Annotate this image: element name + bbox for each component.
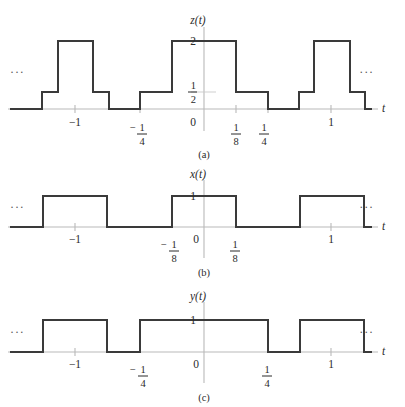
fraction-denominator: 4 — [140, 378, 146, 389]
fraction-numerator: 1 — [139, 122, 144, 133]
fraction-numerator: 1 — [261, 122, 266, 133]
panel-c-xtick-minus1: −1 — [69, 358, 81, 370]
panel-c-ytick-1: 1 — [190, 314, 196, 326]
panel-b: x(t) t 0 1 −1 − 1 8 1 8 1 ··· ··· (b) — [8, 168, 386, 279]
panel-a-right-ellipsis: ··· — [359, 65, 374, 79]
panel-b-x-axis-label: t — [382, 220, 386, 232]
fraction-numerator: 1 — [191, 80, 196, 91]
panel-b-xtick-eighth: 1 8 — [230, 239, 240, 264]
fraction-sign: − — [130, 364, 136, 375]
fraction-numerator: 1 — [140, 364, 145, 375]
panel-c-xtick-minus-quarter: − 1 4 — [130, 364, 148, 389]
panel-c-xtick-plus1: 1 — [328, 358, 334, 370]
panel-c-right-ellipsis: ··· — [359, 325, 374, 339]
panel-b-ytick-1: 1 — [190, 190, 196, 202]
panel-b-right-ellipsis: ··· — [359, 200, 374, 214]
fraction-sign: − — [130, 122, 136, 133]
panel-a-signal-label: z(t) — [189, 14, 206, 27]
panel-c-tag: (c) — [198, 392, 210, 404]
waveform-figure: z(t) t 0 2 1 2 −1 − 1 4 1 8 1 4 — [0, 0, 405, 407]
panel-b-origin-label: 0 — [193, 233, 199, 245]
fraction-numerator: 1 — [233, 122, 238, 133]
fraction-denominator: 4 — [261, 136, 267, 147]
panel-a-left-ellipsis: ··· — [10, 65, 25, 79]
panel-b-xtick-minus1: −1 — [69, 233, 81, 245]
fraction-numerator: 1 — [171, 239, 176, 250]
panel-c-x-axis-label: t — [382, 345, 386, 357]
panel-a-x-axis-label: t — [382, 102, 386, 114]
fraction-numerator: 1 — [264, 364, 269, 375]
fraction-denominator: 8 — [171, 253, 176, 264]
panel-a-tag: (a) — [198, 149, 210, 161]
panel-c-signal-label: y(t) — [189, 290, 206, 303]
panel-a: z(t) t 0 2 1 2 −1 − 1 4 1 8 1 4 — [8, 14, 386, 161]
fraction-denominator: 8 — [232, 253, 237, 264]
panel-b-xtick-minus-eighth: − 1 8 — [161, 239, 179, 264]
panel-b-signal-label: x(t) — [189, 168, 206, 181]
fraction-sign: − — [161, 239, 167, 250]
panel-b-xtick-plus1: 1 — [328, 233, 334, 245]
panel-c-origin-label: 0 — [193, 358, 199, 370]
panel-c-left-ellipsis: ··· — [10, 325, 25, 339]
fraction-denominator: 4 — [264, 378, 270, 389]
panel-c-xtick-quarter: 1 4 — [262, 364, 272, 389]
panel-a-xtick-minus-quarter: − 1 4 — [130, 122, 147, 147]
fraction-denominator: 4 — [139, 136, 145, 147]
fraction-numerator: 1 — [232, 239, 237, 250]
panel-a-origin-label: 0 — [190, 116, 196, 128]
panel-b-left-ellipsis: ··· — [10, 200, 25, 214]
panel-a-xtick-plus1: 1 — [328, 116, 334, 128]
panel-a-ytick-2: 2 — [190, 35, 196, 47]
panel-a-xtick-quarter: 1 4 — [259, 122, 269, 147]
panel-b-tag: (b) — [198, 267, 211, 279]
fraction-denominator: 2 — [191, 94, 196, 105]
panel-a-ytick-half: 1 2 — [188, 80, 197, 105]
panel-a-xtick-minus1: −1 — [69, 116, 81, 128]
panel-c: y(t) t 0 1 −1 − 1 4 1 4 1 ··· ··· (c) — [8, 290, 386, 404]
fraction-denominator: 8 — [233, 136, 238, 147]
panel-a-xtick-eighth: 1 8 — [231, 122, 241, 147]
